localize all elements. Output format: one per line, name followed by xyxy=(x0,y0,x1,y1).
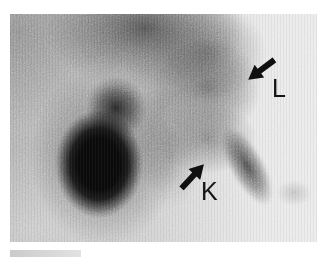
annotation-label-K: K xyxy=(201,179,218,204)
scan-strip-artifact xyxy=(10,250,81,257)
scintigram-image: L K xyxy=(10,14,317,242)
annotation-label-L: L xyxy=(272,76,286,101)
scanline-texture xyxy=(10,14,317,242)
figure-page: L K xyxy=(0,0,334,261)
